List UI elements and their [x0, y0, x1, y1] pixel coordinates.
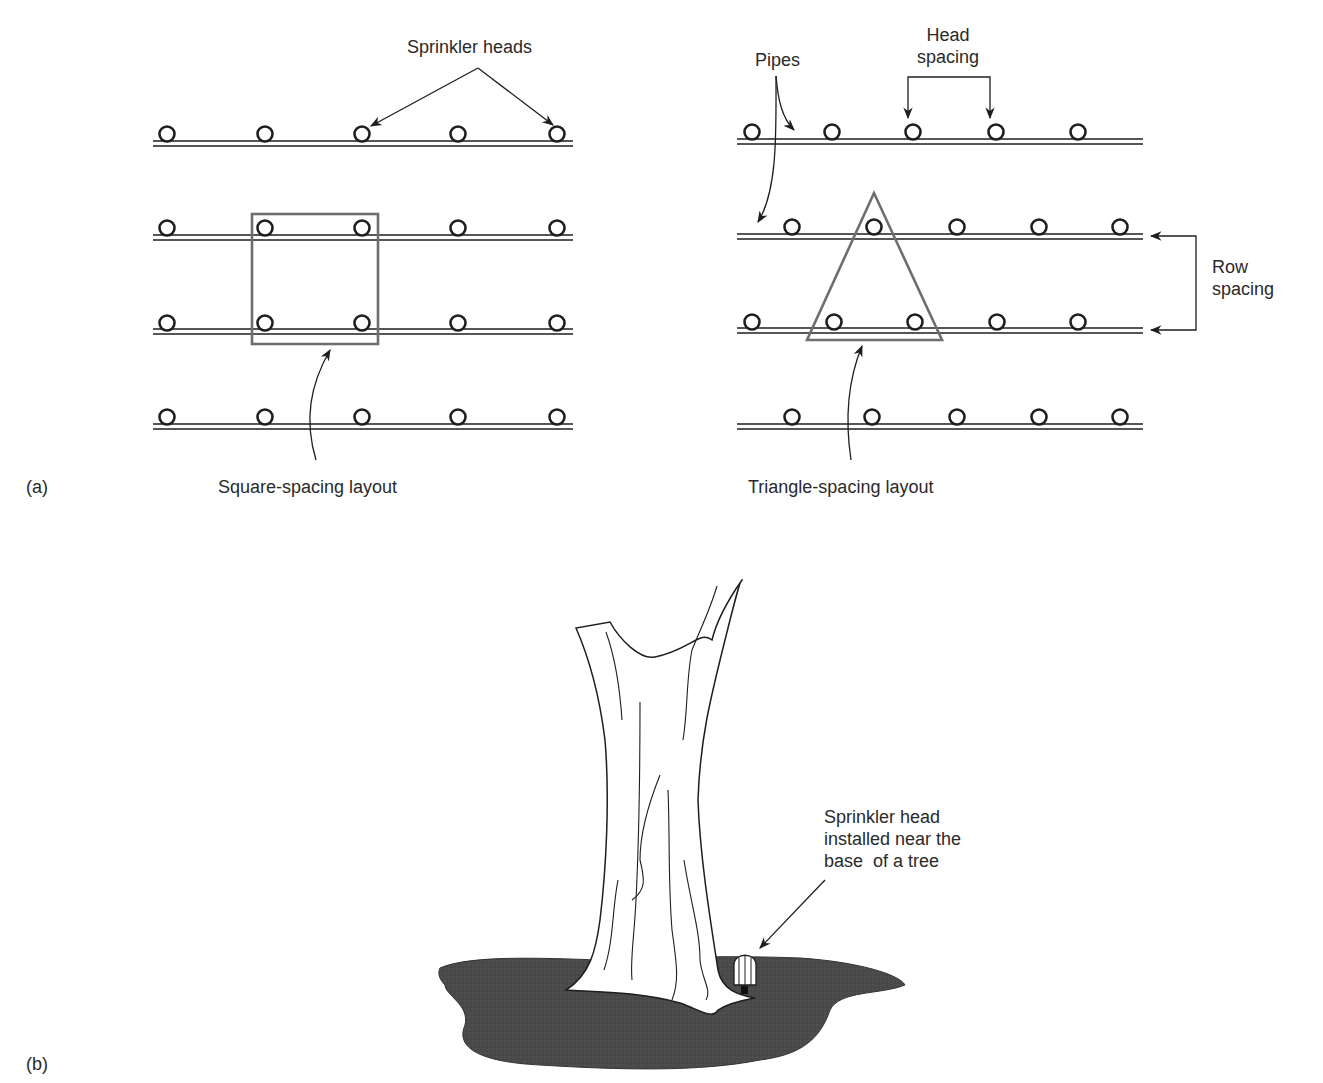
tree-sprinkler-line-1: Sprinkler head: [824, 806, 961, 828]
row-spacing-bracket: [1151, 236, 1196, 330]
diagram-canvas: [0, 0, 1323, 1083]
panel-a-label: (a): [26, 476, 48, 498]
sprinkler-heads-label: Sprinkler heads: [407, 36, 532, 58]
row-spacing-line-2: spacing: [1212, 278, 1274, 300]
tree-sprinkler-line-2: installed near the: [824, 828, 961, 850]
sprinkler-heads-arrow-1: [371, 68, 478, 126]
panel-b-label: (b): [26, 1053, 48, 1075]
pipe-rows-square: [153, 141, 573, 429]
head-spacing-line-1: Head: [904, 24, 992, 46]
triangle-layout-arrow: [848, 346, 862, 460]
pipe-rows-triangle: [737, 139, 1143, 429]
tree-sprinkler-label: Sprinkler head installed near the base o…: [824, 806, 961, 872]
head-spacing-label: Head spacing: [904, 24, 992, 68]
triangle-spacing-layout: [737, 76, 1196, 460]
pipes-arrow-1: [776, 76, 794, 130]
row-spacing-line-1: Row: [1212, 256, 1274, 278]
head-spacing-line-2: spacing: [904, 46, 992, 68]
square-spacing-layout: [153, 68, 573, 460]
tree-sprinkler-line-3: base of a tree: [824, 850, 961, 872]
sprinkler-head-arrow: [760, 880, 825, 948]
sprinkler-heads-triangle: [745, 125, 1128, 425]
square-layout-arrow: [310, 350, 330, 460]
head-spacing-bracket: [908, 77, 990, 118]
pipes-arrow-2: [758, 76, 776, 222]
sprinkler-heads-arrow-2: [478, 68, 553, 125]
pipes-label: Pipes: [755, 49, 800, 71]
square-layout-caption: Square-spacing layout: [218, 476, 397, 498]
tree-trunk: [566, 580, 755, 1014]
row-spacing-label: Row spacing: [1212, 256, 1274, 300]
triangle-layout-caption: Triangle-spacing layout: [748, 476, 933, 498]
sprinkler-heads-square: [160, 127, 565, 425]
